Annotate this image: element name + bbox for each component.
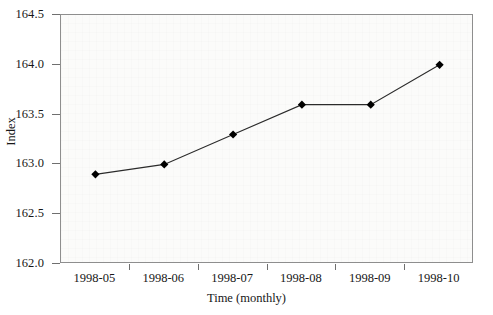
line-chart-figure: Index 162.0162.5163.0163.5164.0164.5 199… [0,0,493,315]
x-axis-tick-label: 1998-10 [394,272,484,285]
y-axis-tick [52,263,60,264]
x-axis-tick [129,264,130,270]
x-axis-title: Time (monthly) [0,291,493,306]
data-point-marker[interactable] [160,160,168,168]
y-axis-tick [52,163,60,164]
data-point-marker[interactable] [298,101,306,109]
y-axis-tick-label: 162.5 [0,207,44,220]
data-point-marker[interactable] [435,61,443,69]
y-axis-tick-label: 164.0 [0,58,44,71]
y-axis-tick-label: 164.5 [0,8,44,21]
y-axis-tick-label: 163.5 [0,108,44,121]
data-series-svg [61,15,474,264]
data-point-marker[interactable] [229,130,237,138]
y-axis-tick-label: 162.0 [0,257,44,270]
series-line [95,65,439,175]
y-axis-tick [52,213,60,214]
y-axis-tick [52,114,60,115]
x-axis-tick [335,264,336,270]
y-axis-tick [52,14,60,15]
x-axis-tick [404,264,405,270]
plot-area [60,14,473,263]
x-axis-tick [198,264,199,270]
data-point-marker[interactable] [367,101,375,109]
y-axis-tick-label: 163.0 [0,157,44,170]
y-axis-tick [52,64,60,65]
data-point-marker[interactable] [91,170,99,178]
x-axis-tick [267,264,268,270]
